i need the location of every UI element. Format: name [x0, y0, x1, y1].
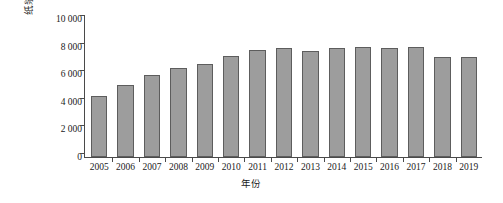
bar	[197, 64, 213, 157]
bar	[302, 51, 318, 157]
y-tick-label: 8 000	[36, 42, 82, 52]
y-tick-mark	[80, 98, 85, 99]
y-tick-mark	[80, 125, 85, 126]
y-axis-title: 纸浆产量/万t	[22, 0, 36, 42]
y-axis-tick-labels: 02 0004 0006 0008 00010 000	[36, 12, 82, 162]
bar	[117, 85, 133, 157]
x-tick-label: 2016	[376, 161, 402, 174]
x-tick-label: 2011	[244, 161, 270, 174]
y-tick-label: 10 000	[36, 14, 82, 24]
y-tick-mark	[80, 153, 85, 154]
y-tick-label: 6 000	[36, 69, 82, 79]
x-tick-label: 2007	[139, 161, 165, 174]
bars-layer	[86, 19, 482, 157]
plot-area	[86, 19, 482, 157]
y-tick-mark	[80, 15, 85, 16]
pulp-production-bar-chart: 纸浆产量/万t 02 0004 0006 0008 00010 000 2005…	[0, 0, 503, 203]
y-axis-line	[84, 15, 85, 157]
bar	[276, 48, 292, 157]
bar	[223, 56, 239, 157]
bar	[461, 57, 477, 157]
x-axis-title: 年份	[0, 178, 503, 191]
x-tick-label: 2014	[324, 161, 350, 174]
x-tick-label: 2018	[429, 161, 455, 174]
x-tick-label: 2008	[165, 161, 191, 174]
bar	[355, 47, 371, 157]
x-tick-label: 2019	[456, 161, 482, 174]
bar	[329, 48, 345, 157]
y-tick-label: 4 000	[36, 97, 82, 107]
x-tick-label: 2015	[350, 161, 376, 174]
bar	[434, 57, 450, 157]
x-tick-label: 2010	[218, 161, 244, 174]
y-tick-label: 0	[36, 152, 82, 162]
bar	[408, 47, 424, 157]
bar	[381, 48, 397, 157]
x-axis-tick-labels: 2005200620072008200920102011201220132014…	[86, 161, 482, 175]
x-tick-label: 2012	[271, 161, 297, 174]
y-tick-mark	[80, 43, 85, 44]
x-tick-label: 2017	[403, 161, 429, 174]
bar	[170, 68, 186, 157]
bar	[144, 75, 160, 157]
x-axis-line	[84, 157, 482, 158]
x-tick-label: 2005	[86, 161, 112, 174]
bar	[91, 96, 107, 157]
y-tick-label: 2 000	[36, 124, 82, 134]
x-tick-label: 2009	[192, 161, 218, 174]
y-tick-mark	[80, 70, 85, 71]
x-tick-label: 2006	[112, 161, 138, 174]
bar	[249, 50, 265, 157]
x-tick-label: 2013	[297, 161, 323, 174]
